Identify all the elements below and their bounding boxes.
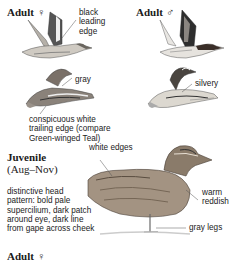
next-adult-female-heading: Adult♀ bbox=[7, 250, 45, 262]
description-line: pattern: bold pale bbox=[7, 196, 94, 205]
white-edges-callout: white edges bbox=[89, 143, 133, 152]
heading-text: Adult bbox=[7, 250, 34, 262]
juvenile-season: (Aug–Nov) bbox=[7, 163, 58, 175]
adult-male-heading: Adult♂ bbox=[136, 6, 174, 18]
warm-reddish-callout: warm reddish bbox=[202, 188, 229, 207]
male-symbol-icon: ♂ bbox=[166, 6, 174, 18]
gray-annotation: gray bbox=[75, 75, 91, 84]
juvenile-description: distinctive head pattern: bold pale supe… bbox=[7, 187, 94, 233]
heading-text: Adult bbox=[7, 6, 34, 18]
gray-legs-callout: gray legs bbox=[189, 223, 222, 232]
caption-line: trailing edge (compare bbox=[29, 124, 110, 133]
juvenile-heading: Juvenile bbox=[7, 151, 46, 163]
trailing-edge-caption: conspicuous white trailing edge (compare… bbox=[29, 115, 110, 143]
female-symbol-icon: ♀ bbox=[37, 6, 45, 18]
annotation-line: edge bbox=[79, 27, 105, 36]
silvery-annotation: silvery bbox=[195, 79, 218, 88]
annotation-line: leading bbox=[79, 17, 105, 26]
juvenile-standing-duck-illustration bbox=[88, 146, 212, 234]
adult-female-heading: Adult♀ bbox=[7, 6, 45, 18]
caption-line: Green-winged Teal) bbox=[29, 134, 110, 143]
description-line: supercilium, dark patch bbox=[7, 206, 94, 215]
caption-line: conspicuous white bbox=[29, 115, 110, 124]
description-line: distinctive head bbox=[7, 187, 94, 196]
female-symbol-icon: ♀ bbox=[37, 250, 45, 262]
heading-text: Adult bbox=[136, 6, 163, 18]
description-line: from gape across cheek bbox=[7, 224, 94, 233]
description-line: around eye, dark line bbox=[7, 215, 94, 224]
black-leading-edge-annotation: black leading edge bbox=[79, 8, 105, 36]
callout-line: warm bbox=[202, 188, 229, 197]
callout-line: reddish bbox=[202, 197, 229, 206]
annotation-line: black bbox=[79, 8, 105, 17]
